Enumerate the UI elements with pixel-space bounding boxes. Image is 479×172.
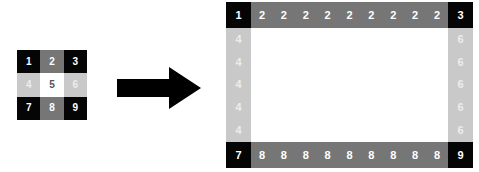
source-cell-6: 6: [64, 73, 87, 96]
target-top-edge-cell-6: 2: [360, 2, 382, 28]
target-bottom-edge-cell-3: 8: [295, 142, 317, 168]
transform-arrow: [117, 66, 201, 110]
source-cell-2: 2: [40, 50, 63, 73]
target-corner-top-right: 3: [448, 2, 473, 28]
target-right-edge-cell-3: 6: [448, 74, 473, 97]
target-corner-bottom-left: 7: [226, 142, 251, 168]
right-arrow-icon: [117, 66, 201, 110]
target-bottom-edge-cell-6: 8: [360, 142, 382, 168]
source-image-grid: 1 2 3 4 5 6 7 8 9: [17, 50, 87, 120]
target-top-edge-cell-2: 2: [273, 2, 295, 28]
target-bottom-edge-cell-9: 8: [426, 142, 448, 168]
target-right-edge-cell-4: 6: [448, 96, 473, 119]
target-bottom-edge-cell-7: 8: [382, 142, 404, 168]
target-top-edge-cell-5: 2: [339, 2, 361, 28]
target-top-edge-cell-9: 2: [426, 2, 448, 28]
target-left-edge-cell-1: 4: [226, 28, 251, 51]
target-corner-bottom-right: 9: [448, 142, 473, 168]
target-bottom-edge-cell-1: 8: [251, 142, 273, 168]
source-cell-3: 3: [64, 50, 87, 73]
target-left-edge-cell-2: 4: [226, 51, 251, 74]
target-right-edge-strip: 66666: [448, 28, 473, 142]
source-cell-1: 1: [17, 50, 40, 73]
expanded-border-grid: 1 222222222 3 44444 66666 7 888888888 9: [226, 2, 473, 168]
target-left-edge-cell-5: 4: [226, 119, 251, 142]
source-cell-7: 7: [17, 97, 40, 120]
target-bottom-edge-cell-4: 8: [317, 142, 339, 168]
target-left-edge-strip: 44444: [226, 28, 251, 142]
target-left-edge-cell-3: 4: [226, 74, 251, 97]
target-top-edge-cell-3: 2: [295, 2, 317, 28]
source-cell-8: 8: [40, 97, 63, 120]
target-top-edge-cell-4: 2: [317, 2, 339, 28]
target-right-edge-cell-2: 6: [448, 51, 473, 74]
target-bottom-edge-cell-2: 8: [273, 142, 295, 168]
target-top-edge-strip: 222222222: [251, 2, 448, 28]
target-left-edge-cell-4: 4: [226, 96, 251, 119]
target-top-edge-cell-1: 2: [251, 2, 273, 28]
target-right-edge-cell-5: 6: [448, 119, 473, 142]
target-top-edge-cell-7: 2: [382, 2, 404, 28]
source-cell-4: 4: [17, 73, 40, 96]
source-cell-9: 9: [64, 97, 87, 120]
target-corner-top-left: 1: [226, 2, 251, 28]
target-right-edge-cell-1: 6: [448, 28, 473, 51]
target-bottom-edge-cell-5: 8: [339, 142, 361, 168]
target-top-edge-cell-8: 2: [404, 2, 426, 28]
target-bottom-edge-cell-8: 8: [404, 142, 426, 168]
target-bottom-edge-strip: 888888888: [251, 142, 448, 168]
source-cell-5: 5: [40, 73, 63, 96]
target-center-region: [251, 28, 448, 142]
